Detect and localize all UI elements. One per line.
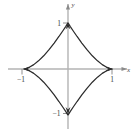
x-tick-label-pos1: 1 — [110, 75, 114, 84]
x-axis-label: x — [126, 66, 131, 74]
y-axis-label: y — [70, 1, 75, 9]
y-tick-label-pos1: 1 — [57, 19, 61, 28]
astroid-figure: x y −1 1 1 −1 — [0, 0, 134, 132]
x-tick-label-neg1: −1 — [17, 75, 25, 84]
plot-canvas: x y −1 1 1 −1 — [0, 0, 134, 132]
y-tick-label-neg1: −1 — [53, 109, 61, 118]
y-axis-arrowhead — [66, 4, 70, 10]
